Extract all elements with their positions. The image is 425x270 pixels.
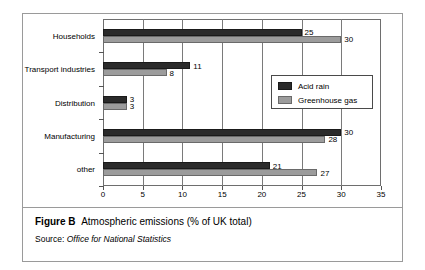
y-tick-mark — [99, 86, 104, 87]
bar-value-label: 28 — [328, 135, 337, 144]
legend-item-acid-rain: Acid rain — [278, 80, 366, 92]
bar-greenhouse-gas — [103, 69, 167, 76]
bar-value-label: 30 — [344, 35, 353, 44]
category-label: Transport industries — [23, 65, 95, 74]
legend-label-acid-rain: Acid rain — [298, 82, 329, 91]
legend-swatch-icon-acid-rain — [278, 82, 292, 90]
x-tick-label: 10 — [178, 190, 187, 199]
bar-greenhouse-gas — [103, 103, 127, 110]
x-tick-label: 0 — [101, 190, 105, 199]
bar-value-label: 30 — [344, 128, 353, 137]
bar-greenhouse-gas — [103, 136, 325, 143]
x-tick-label: 20 — [257, 190, 266, 199]
category-label: Manufacturing — [23, 131, 95, 140]
bar-value-label: 11 — [193, 61, 201, 70]
bar-value-label: 27 — [320, 168, 329, 177]
y-tick-mark — [99, 52, 104, 53]
bar-greenhouse-gas — [103, 169, 317, 176]
x-tick-label: 5 — [140, 190, 144, 199]
category-label: Households — [23, 31, 95, 40]
bar-greenhouse-gas — [103, 36, 341, 43]
gridline — [222, 19, 223, 186]
bar-value-label: 8 — [170, 68, 174, 77]
source-name: Office for National Statistics — [67, 234, 171, 244]
x-tick-label: 25 — [297, 190, 306, 199]
bar-acid-rain — [103, 162, 270, 169]
gridline — [262, 19, 263, 186]
legend-label-greenhouse-gas: Greenhouse gas — [298, 96, 357, 105]
figure-container: 25301183330282127 05101520253035 Househo… — [22, 13, 403, 262]
caption-block: Figure B Atmospheric emissions (% of UK … — [35, 216, 394, 244]
caption-divider — [23, 207, 402, 208]
source-prefix: Source: — [35, 234, 64, 244]
y-tick-mark — [99, 153, 104, 154]
figure-caption: Figure B Atmospheric emissions (% of UK … — [35, 216, 394, 227]
bar-acid-rain — [103, 62, 190, 69]
category-label: other — [23, 165, 95, 174]
chart-area: 25301183330282127 05101520253035 Househo… — [23, 14, 404, 204]
x-tick-label: 15 — [218, 190, 227, 199]
category-label: Distribution — [23, 98, 95, 107]
y-tick-mark — [99, 186, 104, 187]
bar-acid-rain — [103, 96, 127, 103]
y-tick-mark — [99, 119, 104, 120]
gridline — [143, 19, 144, 186]
figure-number: Figure B — [35, 216, 76, 227]
gridline — [182, 19, 183, 186]
legend-swatch-icon-greenhouse-gas — [278, 96, 292, 104]
x-tick-label: 35 — [377, 190, 386, 199]
x-tick-label: 30 — [337, 190, 346, 199]
legend-item-greenhouse-gas: Greenhouse gas — [278, 94, 366, 106]
bar-value-label: 3 — [130, 102, 134, 111]
figure-title: Atmospheric emissions (% of UK total) — [81, 216, 252, 227]
chart-legend: Acid rain Greenhouse gas — [271, 75, 373, 109]
figure-source: Source: Office for National Statistics — [35, 234, 394, 244]
bar-acid-rain — [103, 129, 341, 136]
bar-acid-rain — [103, 29, 302, 36]
